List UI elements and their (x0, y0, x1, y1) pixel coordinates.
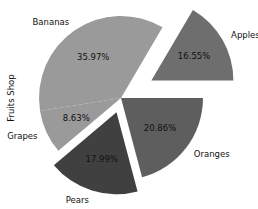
pie-slices (39, 10, 233, 194)
percent-label-grapes: 8.63% (63, 113, 90, 123)
pie-slice-oranges (121, 98, 203, 177)
pie-slice-bananas (39, 16, 163, 111)
percent-label-apples: 16.55% (178, 51, 210, 61)
category-label-grapes: Grapes (7, 131, 38, 141)
percent-label-pears: 17.99% (86, 154, 118, 164)
percent-label-oranges: 20.86% (144, 123, 176, 133)
category-label-oranges: Oranges (194, 149, 230, 159)
pie-slice-apples (151, 10, 233, 81)
category-label-bananas: Bananas (33, 17, 70, 27)
pie-chart: 16.55%35.97%8.63%17.99%20.86% ApplesBana… (0, 0, 258, 209)
y-axis-label: Fruits Shop (6, 74, 16, 121)
percent-label-bananas: 35.97% (77, 52, 109, 62)
category-label-pears: Pears (66, 195, 90, 205)
category-label-apples: Apples (231, 30, 258, 40)
